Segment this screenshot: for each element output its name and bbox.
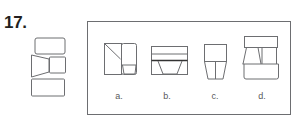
- option-c-label[interactable]: c.: [205, 91, 225, 101]
- option-c-figure[interactable]: [195, 35, 240, 85]
- option-b-label[interactable]: b.: [157, 91, 177, 101]
- option-d-figure[interactable]: [235, 30, 290, 85]
- option-b-figure[interactable]: [145, 40, 195, 85]
- ref-left-trapezoid: [32, 55, 50, 77]
- option-a-figure[interactable]: [100, 40, 150, 85]
- ref-top-rect: [35, 38, 65, 54]
- ref-right-square: [50, 57, 66, 73]
- ref-bottom-rect: [32, 79, 65, 96]
- option-a-label[interactable]: a.: [109, 91, 129, 101]
- reference-figure: [0, 0, 80, 110]
- option-d-label[interactable]: d.: [252, 91, 272, 101]
